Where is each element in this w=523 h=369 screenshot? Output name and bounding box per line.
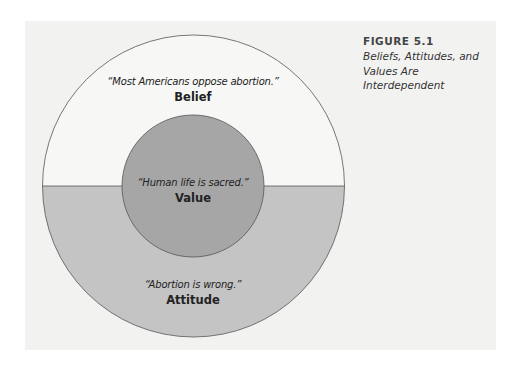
- figure-caption: FIGURE 5.1 Beliefs, Attitudes, and Value…: [363, 35, 493, 93]
- attitude-label: “Abortion is wrong.” Attitude: [93, 279, 293, 307]
- belief-label: “Most Americans oppose abortion.” Belief: [93, 76, 293, 104]
- value-term: Value: [93, 191, 293, 205]
- figure-title: Beliefs, Attitudes, and Values Are Inter…: [363, 49, 493, 93]
- belief-term: Belief: [93, 90, 293, 104]
- attitude-quote: “Abortion is wrong.”: [93, 279, 293, 290]
- attitude-term: Attitude: [93, 293, 293, 307]
- value-label: “Human life is sacred.” Value: [93, 177, 293, 205]
- value-quote: “Human life is sacred.”: [93, 177, 293, 188]
- belief-quote: “Most Americans oppose abortion.”: [93, 76, 293, 87]
- figure-number: FIGURE 5.1: [363, 35, 493, 47]
